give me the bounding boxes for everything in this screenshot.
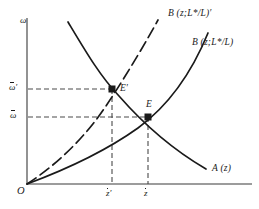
point-label-e: E xyxy=(146,100,152,110)
x-tick-z-bar-prime-base: z xyxy=(106,189,110,198)
origin-label: O xyxy=(17,186,25,197)
equilibrium-diagram: ω ω′ ω z′ z O B (z;L*/L)′ B (z;L*/L) A (… xyxy=(0,0,259,209)
point-label-e-prime: E′ xyxy=(120,84,128,94)
y-axis-label: ω xyxy=(20,16,26,25)
curve-b xyxy=(27,33,208,184)
curve-label-b: B (z;L*/L) xyxy=(192,38,233,48)
x-tick-z-bar-base: z xyxy=(144,189,148,198)
curve-label-a: A (z) xyxy=(212,164,231,174)
y-tick-omega-bar-prime: ω′ xyxy=(9,83,17,92)
curve-a xyxy=(68,22,206,169)
x-tick-z-bar: z xyxy=(144,189,148,198)
point-e-prime-marker xyxy=(109,86,116,93)
x-tick-z-bar-prime: z′ xyxy=(106,189,111,198)
curve-label-b-prime: B (z;L*/L)′ xyxy=(168,9,212,19)
y-tick-omega-bar: ω xyxy=(10,111,16,120)
curve-b-prime xyxy=(27,20,158,184)
y-tick-omega-bar-prime-mark: ′ xyxy=(15,82,17,92)
y-tick-omega-bar-prime-base: ω xyxy=(9,83,15,92)
plot-canvas xyxy=(0,0,259,209)
y-tick-omega-bar-base: ω xyxy=(10,111,16,120)
point-e-marker xyxy=(145,114,152,121)
